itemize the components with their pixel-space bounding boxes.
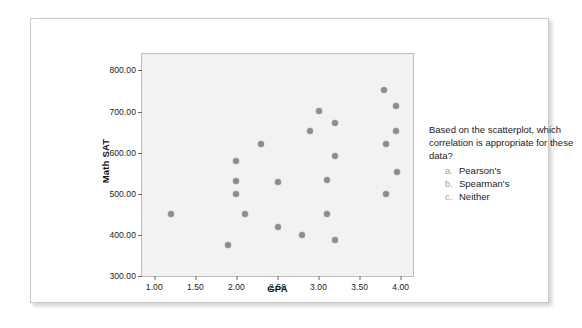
data-point (307, 128, 313, 134)
data-point (394, 169, 400, 175)
answer-option-text: Spearman's (459, 177, 509, 190)
data-point (393, 103, 399, 109)
data-point (233, 158, 239, 164)
data-point (332, 153, 338, 159)
data-point (332, 120, 338, 126)
answer-option[interactable]: b.Spearman's (445, 177, 579, 190)
data-point (383, 191, 389, 197)
data-point (299, 232, 305, 238)
page-card: Math SAT 300.00400.00500.00600.00700.008… (30, 18, 549, 303)
y-axis-tick-label: 300.00 (109, 271, 142, 281)
data-point (168, 211, 174, 217)
data-point (324, 211, 330, 217)
data-point (275, 179, 281, 185)
y-axis-label: Math SAT (100, 139, 111, 184)
data-point (275, 224, 281, 230)
y-axis-tick-label: 400.00 (109, 230, 142, 240)
data-point (332, 237, 338, 243)
answer-option-text: Neither (459, 190, 490, 203)
answer-option-letter: b. (445, 177, 454, 190)
data-point (242, 211, 248, 217)
answer-option[interactable]: c.Neither (445, 190, 579, 203)
y-axis-tick-label: 600.00 (109, 148, 142, 158)
answer-option-letter: a. (445, 164, 454, 177)
y-axis-tick-label: 700.00 (109, 107, 142, 117)
plot-area: 300.00400.00500.00600.00700.00800.001.00… (141, 53, 414, 277)
answer-options-list: a.Pearson'sb.Spearman'sc.Neither (429, 164, 579, 204)
x-axis-label: GPA (141, 283, 414, 294)
data-point (381, 87, 387, 93)
data-point (393, 128, 399, 134)
data-point (233, 191, 239, 197)
data-point (316, 108, 322, 114)
data-point (383, 141, 389, 147)
data-point (225, 242, 231, 248)
y-axis-tick-label: 500.00 (109, 189, 142, 199)
question-block: Based on the scatterplot, which correlat… (429, 123, 579, 203)
answer-option-letter: c. (445, 190, 454, 203)
scatterplot-figure: Math SAT 300.00400.00500.00600.00700.008… (71, 25, 421, 297)
question-prompt: Based on the scatterplot, which correlat… (429, 123, 579, 163)
data-points-layer (142, 54, 413, 276)
answer-option-text: Pearson's (459, 164, 501, 177)
data-point (324, 177, 330, 183)
data-point (233, 178, 239, 184)
data-point (258, 141, 264, 147)
y-axis-tick-label: 800.00 (109, 65, 142, 75)
answer-option[interactable]: a.Pearson's (445, 164, 579, 177)
